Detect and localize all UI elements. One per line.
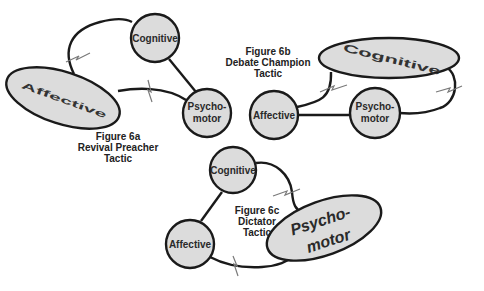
caption-6c-line3: Tactic (243, 227, 272, 238)
label-6b-psychomotor-2: motor (361, 113, 389, 124)
label-6c-cognitive: Cognitive (210, 165, 256, 176)
figure-6c: Cognitive Affective Psycho- motor Figure… (166, 147, 390, 276)
caption-6b-line3: Tactic (254, 68, 283, 79)
figure-6a: Cognitive Psycho- motor Affective Figure… (0, 14, 231, 164)
figure-6b: Cognitive Affective Psycho- motor Figure… (225, 38, 462, 139)
label-6b-affective: Affective (253, 110, 296, 121)
caption-6c-line1: Figure 6c (235, 205, 280, 216)
caption-6b-line1: Figure 6b (245, 46, 290, 57)
label-6c-affective: Affective (169, 239, 212, 250)
label-6a-psychomotor-1: Psycho- (188, 101, 227, 112)
link-6a-cognitive-psychomotor (169, 59, 196, 92)
break-icon (320, 85, 347, 92)
caption-6b-line2: Debate Champion (225, 57, 310, 68)
link-6a-affective-psychomotor (118, 89, 186, 100)
caption-6a-line1: Figure 6a (96, 131, 141, 142)
caption-6a-line3: Tactic (104, 153, 133, 164)
label-6a-psychomotor-2: motor (193, 113, 221, 124)
break-icon (148, 80, 152, 102)
label-6a-cognitive: Cognitive (132, 33, 178, 44)
caption-6a-line2: Revival Preacher (78, 142, 159, 153)
link-6c-cognitive-affective (201, 192, 222, 221)
break-icon (436, 86, 462, 92)
caption-6c-line2: Dictator (238, 216, 276, 227)
domain-diagrams: Cognitive Psycho- motor Affective Figure… (0, 0, 484, 291)
link-6a-affective-cognitive (69, 19, 132, 74)
break-icon (273, 189, 300, 196)
label-6b-psychomotor-1: Psycho- (356, 101, 395, 112)
